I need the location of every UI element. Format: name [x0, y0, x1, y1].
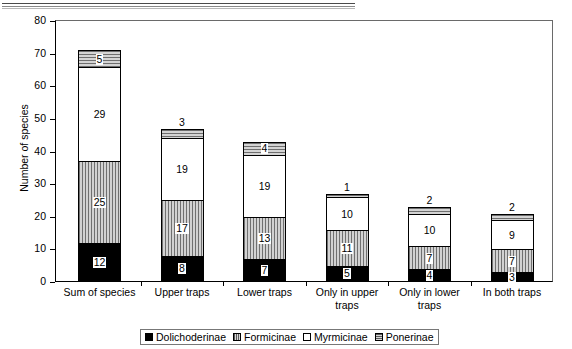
bar-top-value: 3: [161, 117, 204, 128]
bar-stack: 21074: [408, 207, 451, 282]
bar-segment[interactable]: 13: [243, 217, 286, 259]
bar-segment[interactable]: 5: [78, 50, 121, 66]
bar-segment-value: 17: [175, 223, 189, 234]
bar-stack: 110115: [326, 194, 369, 282]
y-axis-tick-label: 10: [34, 242, 46, 254]
bar-stack: 319178: [161, 129, 204, 282]
bar-segment[interactable]: 3: [161, 129, 204, 139]
bar-top-value: 1: [326, 182, 369, 193]
legend-swatch-icon: [233, 333, 241, 341]
bar-top-value: 2: [491, 202, 534, 213]
stacked-bar-chart: Number of species 01020304050607080 5292…: [0, 14, 572, 314]
bar-segment[interactable]: 9: [491, 220, 534, 249]
legend-swatch-icon: [145, 333, 153, 341]
bar-segment[interactable]: 19: [243, 155, 286, 217]
x-axis-label: Only in lower traps: [387, 286, 473, 311]
legend-swatch-icon: [303, 333, 311, 341]
bar-segment-value: 29: [93, 109, 107, 120]
legend-label: Ponerinae: [386, 331, 434, 343]
bar-segment[interactable]: 7: [408, 246, 451, 269]
bar-stack: 2973: [491, 214, 534, 282]
x-axis-label: Only in upper traps: [304, 286, 390, 311]
bar-segment[interactable]: 4: [243, 142, 286, 155]
x-axis-label: In both traps: [469, 286, 555, 299]
bar-segment[interactable]: 29: [78, 67, 121, 162]
bar-stack: 419137: [243, 142, 286, 282]
bar-segment-value: 11: [341, 243, 354, 254]
rule-line-top: [2, 3, 355, 4]
y-axis-tick-mark: [50, 282, 55, 283]
x-axis-tick-mark: [388, 281, 389, 286]
bar-segment-value: 4: [261, 143, 269, 154]
legend-item[interactable]: Myrmicinae: [303, 331, 368, 343]
legend-label: Formicinae: [244, 331, 296, 343]
y-axis-tick-label: 80: [34, 14, 46, 26]
x-axis-label: Sum of species: [57, 286, 143, 299]
bar-segment[interactable]: 25: [78, 161, 121, 243]
legend-item[interactable]: Formicinae: [233, 331, 296, 343]
bar-segment[interactable]: 11: [326, 230, 369, 266]
bar-segment-value: 25: [93, 197, 107, 208]
rule-line-middle: [2, 6, 355, 7]
bar-segment-value: 3: [508, 272, 516, 283]
bar-stack: 5292512: [78, 50, 121, 282]
bar-segment[interactable]: 3: [491, 272, 534, 282]
legend-label: Dolichoderinae: [156, 331, 226, 343]
bar-segment-value: 19: [175, 164, 189, 175]
x-axis-tick-mark: [306, 281, 307, 286]
x-axis-tick-mark: [471, 281, 472, 286]
chart-legend: DolichoderinaeFormicinaeMyrmicinaePoneri…: [140, 329, 439, 345]
bar-segment-value: 4: [426, 270, 434, 281]
y-axis-tick-label: 20: [34, 210, 46, 222]
bar-segment[interactable]: 19: [161, 138, 204, 200]
bar-segment-value: 9: [508, 230, 516, 241]
y-axis-tick-label: 0: [40, 275, 46, 287]
rule-line-bottom: [2, 8, 355, 9]
bar-segment[interactable]: 7: [491, 249, 534, 272]
bar-segment-value: 13: [258, 233, 272, 244]
y-axis-tick-label: 40: [34, 145, 46, 157]
bar-segment-value: 10: [423, 225, 437, 236]
x-axis-labels: Sum of speciesUpper trapsLower trapsOnly…: [56, 286, 552, 320]
bar-segment-value: 12: [93, 257, 107, 268]
bar-segment[interactable]: 12: [78, 243, 121, 282]
bar-segment-value: 10: [340, 209, 354, 220]
y-axis-tick-label: 50: [34, 112, 46, 124]
bar-segment[interactable]: 10: [408, 214, 451, 247]
bar-segment-value: 7: [261, 265, 269, 276]
bar-segment-value: 19: [258, 181, 272, 192]
x-axis-label: Upper traps: [139, 286, 225, 299]
x-axis-tick-mark: [141, 281, 142, 286]
y-axis-tick-label: 70: [34, 47, 46, 59]
bars-layer: 52925123319178419137111011522107422973: [56, 21, 552, 282]
bar-segment-value: 7: [426, 253, 434, 264]
x-axis-tick-mark: [223, 281, 224, 286]
x-axis-label: Lower traps: [222, 286, 308, 299]
y-axis-tick-label: 60: [34, 79, 46, 91]
bar-segment-value: 8: [178, 263, 186, 274]
bar-segment[interactable]: 17: [161, 200, 204, 255]
bar-segment-value: 7: [508, 256, 516, 267]
bar-segment[interactable]: 10: [326, 197, 369, 230]
bar-segment[interactable]: 4: [408, 269, 451, 282]
legend-label: Myrmicinae: [314, 331, 368, 343]
legend-item[interactable]: Ponerinae: [375, 331, 434, 343]
legend-item[interactable]: Dolichoderinae: [145, 331, 226, 343]
bar-segment-value: 5: [96, 54, 104, 65]
header-double-rule: [2, 3, 355, 9]
bar-top-value: 2: [408, 195, 451, 206]
bar-segment[interactable]: 8: [161, 256, 204, 282]
bar-segment-value: 5: [343, 268, 351, 279]
bar-segment[interactable]: 5: [326, 266, 369, 282]
y-axis-tick-label: 30: [34, 177, 46, 189]
y-axis-ticks: 01020304050607080: [0, 14, 55, 289]
legend-swatch-icon: [375, 333, 383, 341]
bar-segment[interactable]: 7: [243, 259, 286, 282]
